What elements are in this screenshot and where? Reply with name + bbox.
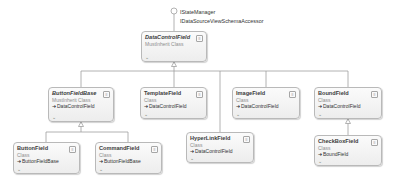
collapse-toggle-icon[interactable]: ≡	[371, 91, 378, 98]
class-name: DataControlField	[145, 34, 203, 41]
base-arrow-icon: ➜	[17, 158, 21, 164]
base-arrow-icon: ➜	[99, 158, 103, 164]
collapse-toggle-icon[interactable]: ≡	[289, 91, 296, 98]
class-box-commandfield[interactable]: CommandField Class ➜ButtonFieldBase ≡ ⌄	[95, 142, 162, 174]
expand-members-icon[interactable]: ⌄	[318, 159, 322, 164]
class-kind: MustInherit Class	[145, 41, 203, 47]
base-arrow-icon: ➜	[318, 151, 322, 157]
inheritance-arrow-icon	[346, 119, 351, 124]
base-class-ref: ➜ButtonFieldBase	[99, 158, 158, 165]
class-box-checkboxfield[interactable]: CheckBoxField Class ➜BoundField ≡ ⌄	[314, 135, 382, 166]
expand-members-icon[interactable]: ⌄	[145, 55, 149, 60]
base-class-ref: ➜DataControlField	[144, 103, 203, 110]
collapse-toggle-icon[interactable]: ≡	[69, 146, 76, 153]
interface-lollipop-icon	[171, 8, 177, 14]
expand-members-icon[interactable]: ⌄	[17, 167, 21, 172]
class-box-buttonfield[interactable]: ButtonField Class ➜ButtonFieldBase ≡ ⌄	[13, 142, 80, 174]
class-box-buttonfieldbase[interactable]: ButtonFieldBase MustInherit Class ➜DataC…	[48, 87, 114, 122]
base-class-ref: ➜ButtonFieldBase	[17, 158, 76, 165]
interface-label-idatasourceviewschemaaccessor: IDataSourceViewSchemaAccessor	[180, 18, 264, 25]
base-arrow-icon: ➜	[52, 103, 56, 109]
collapse-toggle-icon[interactable]: ≡	[151, 146, 158, 153]
class-box-hyperlinkfield[interactable]: HyperLinkField Class ➜DataControlField ≡…	[186, 132, 254, 163]
class-name: ButtonFieldBase	[52, 90, 110, 97]
expand-members-icon[interactable]: ⌄	[318, 112, 322, 117]
base-arrow-icon: ➜	[190, 148, 194, 154]
expand-members-icon[interactable]: ⌄	[144, 112, 148, 117]
base-arrow-icon: ➜	[144, 103, 148, 109]
class-name: HyperLinkField	[190, 135, 250, 142]
class-name: ImageField	[236, 90, 296, 97]
class-box-imagefield[interactable]: ImageField Class ➜DataControlField ≡ ⌄	[232, 87, 300, 119]
inheritance-arrow-icon	[79, 122, 84, 127]
collapse-toggle-icon[interactable]: ≡	[196, 35, 203, 42]
class-name: ButtonField	[17, 145, 76, 152]
collapse-toggle-icon[interactable]: ≡	[243, 136, 250, 143]
class-box-templatefield[interactable]: TemplateField Class ➜DataControlField ≡ …	[140, 87, 207, 119]
class-box-boundfield[interactable]: BoundField Class ➜DataControlField ≡ ⌄	[314, 87, 382, 119]
class-box-datacontrolfield[interactable]: DataControlField MustInherit Class ≡ ⌄	[141, 31, 207, 62]
base-arrow-icon: ➜	[318, 103, 322, 109]
expand-members-icon[interactable]: ⌄	[190, 156, 194, 161]
collapse-toggle-icon[interactable]: ≡	[196, 91, 203, 98]
base-class-ref: ➜DataControlField	[236, 103, 296, 110]
collapse-toggle-icon[interactable]: ≡	[371, 139, 378, 146]
class-name: TemplateField	[144, 90, 203, 97]
base-class-ref: ➜DataControlField	[52, 103, 110, 110]
base-arrow-icon: ➜	[236, 103, 240, 109]
base-class-ref: ➜DataControlField	[318, 103, 378, 110]
collapse-toggle-icon[interactable]: ≡	[103, 91, 110, 98]
expand-members-icon[interactable]: ⌄	[236, 112, 240, 117]
class-name: BoundField	[318, 90, 378, 97]
expand-members-icon[interactable]: ⌄	[52, 115, 56, 120]
interface-label-istatemanager: IStateManager	[180, 9, 215, 16]
inheritance-arrow-icon	[172, 62, 177, 67]
class-name: CommandField	[99, 145, 158, 152]
expand-members-icon[interactable]: ⌄	[99, 167, 103, 172]
base-class-ref: ➜BoundField	[318, 151, 378, 158]
base-class-ref: ➜DataControlField	[190, 148, 250, 155]
class-name: CheckBoxField	[318, 138, 378, 145]
